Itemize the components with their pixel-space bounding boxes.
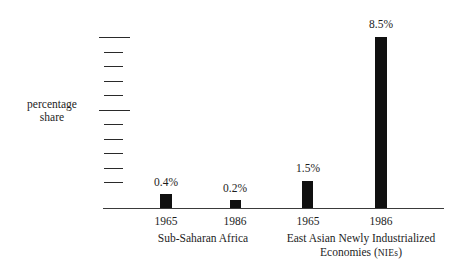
- y-tick-1: [104, 168, 123, 169]
- group-caption-nie-prefix: Economies (: [320, 246, 378, 258]
- y-tick-2: [104, 153, 123, 154]
- group-caption-nie-suffix: ): [398, 246, 402, 258]
- bar-year-nie-1986: 1986: [341, 215, 421, 227]
- x-axis-baseline: [103, 208, 444, 209]
- group-caption-nie-abbr: NIEs: [378, 248, 398, 258]
- bar-ssa-1965: [160, 194, 172, 208]
- y-tick-5: [99, 110, 130, 111]
- y-tick-6: [104, 95, 123, 96]
- bar-value-nie-1965: 1.5%: [268, 162, 348, 174]
- y-tick-4: [104, 124, 123, 125]
- y-tick-0: [104, 182, 123, 183]
- bar-value-ssa-1986: 0.2%: [195, 182, 275, 194]
- y-tick-10: [99, 37, 130, 38]
- y-tick-7: [104, 81, 123, 82]
- bar-year-ssa-1986: 1986: [195, 215, 275, 227]
- y-tick-9: [104, 52, 123, 53]
- y-tick-8: [104, 66, 123, 67]
- bar-nie-1965: [302, 181, 313, 208]
- group-caption-east-asian-nies: East Asian Newly Industrialized Economie…: [268, 232, 454, 260]
- bar-nie-1986: [375, 37, 387, 208]
- group-caption-ssa-line-1: Sub-Saharan Africa: [123, 232, 283, 246]
- bar-year-ssa-1965: 1965: [126, 215, 206, 227]
- group-caption-sub-saharan-africa: Sub-Saharan Africa: [123, 232, 283, 246]
- y-axis-scale: 10 5: [0, 0, 140, 276]
- y-tick-3: [104, 139, 123, 140]
- group-caption-nie-line-1: East Asian Newly Industrialized: [268, 232, 454, 246]
- bar-value-nie-1986: 8.5%: [341, 18, 421, 30]
- bar-ssa-1986: [230, 200, 241, 208]
- bar-chart-figure: percentage share 10 5 0.4% 1965 0.2% 198…: [0, 0, 459, 276]
- bar-value-ssa-1965: 0.4%: [126, 176, 206, 188]
- bar-year-nie-1965: 1965: [268, 215, 348, 227]
- group-caption-nie-line-2: Economies (NIEs): [268, 246, 454, 261]
